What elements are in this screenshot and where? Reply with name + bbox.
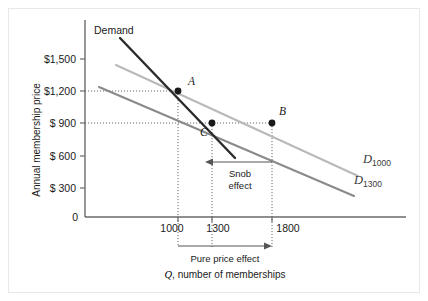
svg-text:D1300: D1300: [353, 173, 382, 189]
snob-effect-label-line1: Snob: [229, 168, 251, 179]
snob-effect-label-line2: effect: [228, 180, 251, 191]
pure-price-effect-annotation: Pure price effect: [178, 243, 272, 265]
point-label-a: A: [187, 75, 196, 87]
curve-label-d1000-main: D: [362, 152, 372, 166]
curve-label-d1300-sub: 1300: [363, 179, 382, 189]
x-axis-title-rest: , number of memberships: [172, 269, 285, 280]
y-tick-label-300: $ 300: [50, 182, 76, 194]
svg-text:D1000: D1000: [362, 152, 391, 168]
snob-effect-arrowhead: [205, 159, 213, 166]
data-points-group: [175, 88, 276, 127]
origin-label: 0: [72, 211, 78, 223]
curve-demand: [120, 38, 235, 158]
point-label-c: C: [200, 126, 208, 138]
y-tick-label-600: $ 600: [50, 150, 76, 162]
curve-label-d1300: D1300: [353, 173, 382, 189]
data-point-c[interactable]: [209, 120, 216, 127]
y-tick-labels: $1,500 $1,200 $ 900 $ 600 $ 300 0: [44, 53, 78, 223]
figure-frame: $1,500 $1,200 $ 900 $ 600 $ 300 0 Annual…: [0, 0, 428, 301]
data-point-a[interactable]: [175, 88, 182, 95]
pure-price-effect-label: Pure price effect: [190, 253, 259, 264]
curve-label-d1000: D1000: [362, 152, 391, 168]
point-label-b: B: [279, 105, 286, 117]
snob-effect-annotation: Snob effect: [205, 159, 272, 192]
y-tick-label-900: $ 900: [50, 117, 76, 129]
y-tick-marks: [80, 59, 85, 188]
snob-effect-chart: $1,500 $1,200 $ 900 $ 600 $ 300 0 Annual…: [0, 0, 428, 301]
data-point-b[interactable]: [269, 120, 276, 127]
pure-price-effect-arrowhead: [264, 243, 272, 250]
x-tick-label-1000: 1000: [160, 222, 184, 234]
curve-d1000: [116, 65, 358, 176]
y-axis-title: Annual membership price: [31, 83, 42, 197]
x-tick-label-1300: 1300: [206, 222, 230, 234]
point-labels-group: A C B: [187, 75, 286, 138]
x-tick-labels: 1000 1300 1800: [160, 222, 300, 234]
curve-label-d1000-sub: 1000: [372, 158, 391, 168]
y-tick-label-1500: $1,500: [44, 53, 76, 65]
curve-d1300: [99, 87, 354, 196]
x-tick-label-1800: 1800: [276, 222, 300, 234]
x-axis-title: Q, number of memberships: [165, 269, 286, 280]
horizontal-guides: [85, 91, 272, 123]
demand-curve-label: Demand: [94, 24, 134, 36]
curve-label-d1300-main: D: [353, 173, 363, 187]
y-tick-label-1200: $1,200: [44, 85, 76, 97]
